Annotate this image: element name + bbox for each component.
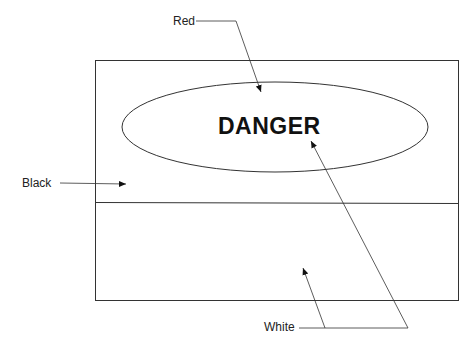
white-leader-text	[311, 141, 408, 328]
sign-outline	[96, 61, 459, 301]
red-leader	[196, 21, 261, 92]
danger-text: DANGER	[218, 113, 321, 140]
panel-divider	[95, 203, 458, 204]
white-leader-lower	[303, 268, 325, 328]
black-leader	[60, 183, 126, 184]
black-label: Black	[22, 176, 51, 190]
red-label: Red	[173, 14, 195, 28]
white-label: White	[264, 320, 295, 334]
diagram-canvas	[0, 0, 474, 349]
